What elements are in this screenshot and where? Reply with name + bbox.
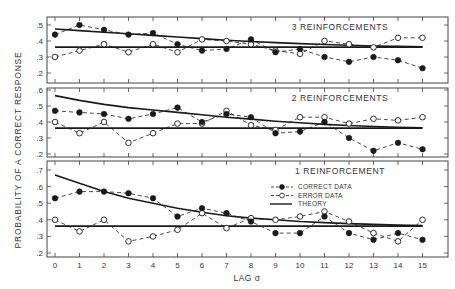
error-data-point xyxy=(150,234,156,240)
x-tick-label: 6 xyxy=(200,261,205,270)
correct-data-point xyxy=(199,205,205,211)
error-data-point xyxy=(371,230,377,236)
correct-data-point xyxy=(175,214,181,220)
y-tick-label: .5 xyxy=(36,21,43,30)
panel-1: .2.3.4.53 REINFORCEMENTS xyxy=(36,17,448,83)
correct-data-point xyxy=(273,230,279,236)
error-data-point xyxy=(420,114,426,120)
chart-canvas: .2.3.4.53 REINFORCEMENTS.2.3.4.5.62 REIN… xyxy=(0,0,455,289)
y-tick-label: .5 xyxy=(36,102,43,111)
error-data-point xyxy=(126,239,132,245)
correct-data-point xyxy=(395,57,401,63)
error-data-point xyxy=(175,49,181,55)
correct-data-point xyxy=(224,111,230,117)
correct-data-point xyxy=(297,129,303,135)
error-data-point xyxy=(101,41,107,47)
x-tick-label: 11 xyxy=(320,261,329,270)
y-tick-label: .6 xyxy=(36,86,43,95)
y-tick-label: .2 xyxy=(36,150,43,159)
correct-data-point xyxy=(420,237,426,243)
panel-title: 3 REINFORCEMENTS xyxy=(292,22,389,32)
x-tick-label: 1 xyxy=(77,261,82,270)
error-data-point xyxy=(395,239,401,245)
error-data-point xyxy=(322,38,328,44)
error-data-point xyxy=(371,116,377,122)
legend-correct-marker xyxy=(280,185,285,190)
correct-data-point xyxy=(199,119,205,125)
error-data-point xyxy=(175,121,181,127)
legend-label: THEORY xyxy=(298,200,327,207)
correct-data-point xyxy=(297,46,303,52)
correct-data-point xyxy=(322,54,328,60)
correct-data-point xyxy=(77,22,83,28)
y-axis-label: PROBABILITY OF A CORRECT RESPONSE xyxy=(13,51,23,248)
x-tick-label: 0 xyxy=(53,261,58,270)
error-data-point xyxy=(273,217,279,223)
correct-data-line xyxy=(55,108,423,151)
error-data-point xyxy=(101,119,107,125)
panel-title: 2 REINFORCEMENTS xyxy=(292,93,389,103)
correct-data-point xyxy=(175,105,181,111)
correct-data-point xyxy=(273,130,279,136)
error-data-point xyxy=(77,48,83,54)
y-tick-label: .6 xyxy=(36,183,43,192)
error-data-point xyxy=(346,219,352,225)
y-tick-label: .2 xyxy=(36,69,43,78)
correct-data-point xyxy=(199,48,205,54)
correct-data-point xyxy=(150,111,156,117)
correct-data-point xyxy=(224,46,230,52)
error-data-point xyxy=(199,37,205,43)
correct-data-point xyxy=(175,41,181,47)
x-tick-label: 7 xyxy=(224,261,229,270)
y-tick-label: .4 xyxy=(36,37,43,46)
x-tick-label: 9 xyxy=(273,261,278,270)
error-data-point xyxy=(126,140,132,146)
error-data-point xyxy=(420,35,426,41)
correct-data-point xyxy=(371,148,377,154)
error-data-point xyxy=(126,49,132,55)
x-tick-label: 13 xyxy=(369,261,378,270)
x-tick-label: 2 xyxy=(102,261,107,270)
panels: .2.3.4.53 REINFORCEMENTS.2.3.4.5.62 REIN… xyxy=(36,17,448,270)
x-tick-label: 4 xyxy=(151,261,156,270)
panel-2: .2.3.4.5.62 REINFORCEMENTS xyxy=(36,86,448,159)
error-data-point xyxy=(346,41,352,47)
error-data-point xyxy=(420,217,426,223)
correct-data-point xyxy=(322,119,328,125)
correct-data-point xyxy=(52,32,58,38)
correct-data-point xyxy=(77,110,83,116)
y-tick-label: .3 xyxy=(36,134,43,143)
y-tick-label: .3 xyxy=(36,53,43,62)
correct-data-point xyxy=(150,30,156,36)
y-tick-label: .2 xyxy=(36,249,43,258)
correct-data-point xyxy=(150,195,156,201)
panel-title: 1 REINFORCEMENT xyxy=(295,166,385,176)
error-data-point xyxy=(248,122,254,128)
legend-label: ERROR DATA xyxy=(298,192,343,199)
error-data-point xyxy=(175,227,181,233)
panel-frame xyxy=(47,161,448,257)
x-tick-label: 12 xyxy=(345,261,354,270)
correct-data-point xyxy=(126,116,132,122)
error-data-point xyxy=(224,225,230,231)
error-data-point xyxy=(150,41,156,47)
correct-data-point xyxy=(395,230,401,236)
error-data-point xyxy=(371,45,377,51)
correct-data-point xyxy=(101,111,107,117)
error-data-point xyxy=(77,229,83,235)
legend: CORRECT DATAERROR DATATHEORY xyxy=(270,183,352,207)
correct-data-point xyxy=(101,189,107,195)
error-data-point xyxy=(77,130,83,136)
correct-data-point xyxy=(395,140,401,146)
error-data-point xyxy=(346,121,352,127)
legend-label: CORRECT DATA xyxy=(298,183,352,190)
correct-data-point xyxy=(52,195,58,201)
correct-data-point xyxy=(52,108,58,114)
correct-data-point xyxy=(77,189,83,195)
x-tick-label: 14 xyxy=(394,261,403,270)
correct-data-point xyxy=(101,27,107,33)
correct-data-line xyxy=(55,192,423,240)
theory-curve xyxy=(55,175,423,226)
error-data-point xyxy=(297,114,303,120)
error-data-point xyxy=(52,54,58,60)
